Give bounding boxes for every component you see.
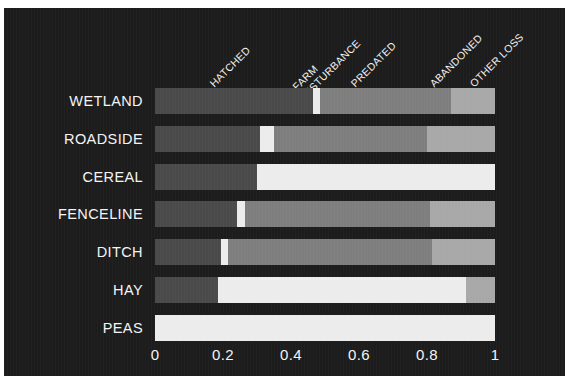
- bar-segment-cereal-hatched[interactable]: [155, 164, 257, 190]
- bar-roadside[interactable]: [155, 126, 495, 152]
- x-axis-tick-0-6: 0.6: [348, 346, 370, 363]
- bar-segment-fenceline-predated[interactable]: [245, 201, 430, 227]
- x-axis-tick-0-8: 0.8: [416, 346, 438, 363]
- bar-cereal[interactable]: [155, 164, 495, 190]
- bar-segment-ditch-abandoned[interactable]: [432, 239, 495, 265]
- stacked-bar-chart-figure: HATCHEDFARM DISTURBANCEPREDATEDABANDONED…: [0, 0, 569, 383]
- bar-segment-fenceline-farm-disturbance[interactable]: [237, 201, 246, 227]
- bar-segment-fenceline-abandoned[interactable]: [430, 201, 495, 227]
- bar-fenceline[interactable]: [155, 201, 495, 227]
- bar-segment-hay-hatched[interactable]: [155, 277, 218, 303]
- bar-segment-ditch-hatched[interactable]: [155, 239, 221, 265]
- bar-segment-fenceline-hatched[interactable]: [155, 201, 237, 227]
- bars-layer: [4, 8, 565, 376]
- x-axis-tick-0: 0: [151, 346, 160, 363]
- bar-segment-wetland-predated[interactable]: [320, 88, 451, 114]
- bar-segment-roadside-predated[interactable]: [274, 126, 427, 152]
- x-axis-tick-0-4: 0.4: [280, 346, 302, 363]
- bar-segment-roadside-hatched[interactable]: [155, 126, 260, 152]
- bar-segment-wetland-hatched[interactable]: [155, 88, 313, 114]
- plot-panel: HATCHEDFARM DISTURBANCEPREDATEDABANDONED…: [4, 8, 565, 376]
- bar-segment-hay-abandoned[interactable]: [466, 277, 495, 303]
- bar-ditch[interactable]: [155, 239, 495, 265]
- bar-segment-cereal-farm-disturbance[interactable]: [257, 164, 495, 190]
- bar-hay[interactable]: [155, 277, 495, 303]
- x-axis-tick-1: 1: [491, 346, 500, 363]
- bar-wetland[interactable]: [155, 88, 495, 114]
- x-axis-tick-0-2: 0.2: [212, 346, 234, 363]
- bar-peas[interactable]: [155, 315, 495, 341]
- bar-segment-roadside-farm-disturbance[interactable]: [260, 126, 274, 152]
- bar-segment-hay-farm-disturbance[interactable]: [218, 277, 466, 303]
- bar-segment-wetland-farm-disturbance[interactable]: [313, 88, 320, 114]
- bar-segment-ditch-predated[interactable]: [228, 239, 432, 265]
- bar-segment-wetland-abandoned[interactable]: [451, 88, 495, 114]
- bar-segment-ditch-farm-disturbance[interactable]: [221, 239, 228, 265]
- bar-segment-peas-farm-disturbance[interactable]: [155, 315, 495, 341]
- bar-segment-roadside-abandoned[interactable]: [427, 126, 495, 152]
- x-axis: 00.20.40.60.81: [4, 344, 565, 376]
